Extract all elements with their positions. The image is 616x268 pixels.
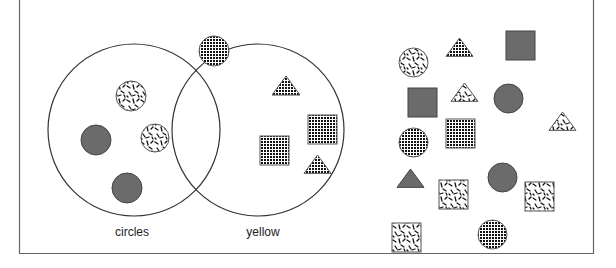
grid-triangle-shape [446,38,473,56]
grid-square-shape [260,136,289,165]
shape-items [81,31,576,252]
grid-triangle-shape [272,76,300,95]
speckle-square-shape [392,223,421,252]
speckle-triangle-shape [451,83,478,101]
solid-square-shape [408,88,437,117]
grid-square-shape [308,115,337,144]
grid-triangle-shape [304,155,331,173]
solid-triangle-shape [397,169,424,187]
venn-diagram: circles yellow [0,0,616,268]
speckle-circle-shape [141,124,169,152]
set-label-yellow: yellow [246,225,280,239]
set-label-circles: circles [115,225,149,239]
grid-circle-shape [478,220,507,249]
speckle-circle-shape [399,48,428,77]
grid-circle-shape [399,128,428,157]
solid-circle-shape [488,163,517,192]
solid-circle-shape [494,84,523,113]
grid-circle-shape [199,36,229,66]
solid-square-shape [506,31,535,60]
speckle-square-shape [525,182,554,211]
speckle-triangle-shape [549,112,576,130]
solid-circle-shape [81,125,111,155]
speckle-square-shape [439,180,468,209]
solid-circle-shape [112,173,142,203]
speckle-circle-shape [116,81,146,111]
grid-square-shape [446,119,475,148]
